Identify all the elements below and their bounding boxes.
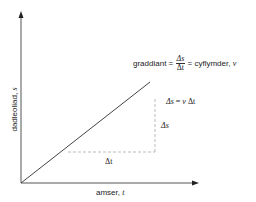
y-axis-arrow-icon: [19, 11, 24, 18]
delta-s-label: Δs: [161, 121, 169, 130]
delta-s-eq-dt: Δt: [188, 97, 195, 106]
displacement-line: [21, 82, 150, 183]
gradient-denominator: Δt: [176, 64, 186, 72]
delta-s-equation: Δs = v Δt: [166, 97, 195, 106]
delta-s-eq-v: v: [182, 97, 186, 106]
graph-canvas: [0, 0, 256, 202]
y-axis-symbol: s: [10, 87, 19, 90]
y-axis-label: dadleoliad, s: [10, 82, 19, 138]
y-axis-label-text: dadleoliad,: [10, 93, 19, 132]
gradient-suffix: = cyflymder,: [188, 59, 231, 68]
x-axis-arrow-icon: [192, 181, 199, 186]
gradient-fraction: Δs Δt: [176, 55, 186, 72]
gradient-equation: graddiant = Δs Δt = cyflymder, v: [133, 55, 236, 72]
delta-s-eq-equals: =: [176, 97, 181, 106]
gradient-prefix: graddiant =: [133, 59, 173, 68]
x-axis-label: amser, t: [96, 188, 124, 197]
x-axis-label-text: amser,: [96, 188, 120, 197]
delta-t-label: Δt: [105, 157, 112, 166]
velocity-symbol: v: [233, 59, 237, 68]
delta-s-eq-lhs: Δs: [166, 97, 174, 106]
x-axis-symbol: t: [122, 188, 124, 197]
